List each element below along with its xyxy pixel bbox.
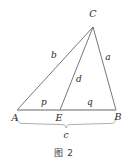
vertex-label-A: A xyxy=(11,112,19,123)
geometry-diagram: C A E B b a d p q c xyxy=(0,0,128,167)
vertex-label-C: C xyxy=(89,8,97,19)
segment-side-a-BC xyxy=(93,27,116,110)
figure-caption: 图 2 xyxy=(0,146,128,159)
segment-label-d: d xyxy=(76,74,82,84)
vertex-label-E: E xyxy=(55,112,63,123)
segment-side-b-AC xyxy=(17,27,93,110)
brace-label-c: c xyxy=(63,130,68,140)
figure-page: C A E B b a d p q c 图 2 xyxy=(0,0,128,167)
brace-c-icon xyxy=(18,118,116,128)
segment-label-q: q xyxy=(87,97,93,107)
segment-label-b: b xyxy=(51,50,57,60)
segment-label-p: p xyxy=(41,97,47,107)
vertex-label-B: B xyxy=(114,111,122,122)
segment-label-a: a xyxy=(105,52,110,62)
